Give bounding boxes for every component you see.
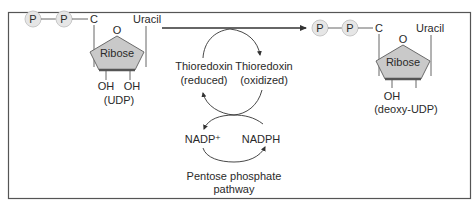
nadp-plus-label: NADP⁺: [185, 133, 222, 145]
ring-oxygen-label: O: [113, 24, 122, 36]
udp-name: (UDP): [104, 94, 135, 106]
udp-reduction-diagram: P P C O Ribose Uracil OH OH (UDP) P P C …: [0, 0, 476, 203]
hydroxyl-label: OH: [98, 80, 115, 92]
thioredoxin-reduced-line1: Thioredoxin: [175, 60, 232, 72]
phosphate-label: P: [29, 13, 36, 25]
uracil-label: Uracil: [416, 22, 444, 34]
pathway-label-line2: pathway: [214, 183, 255, 195]
pathway-label-line1: Pentose phosphate: [187, 170, 282, 182]
ring-oxygen-label: O: [399, 33, 408, 45]
thioredoxin-oxidized-line2: (oxidized): [240, 74, 288, 86]
deoxy-udp-name: (deoxy-UDP): [374, 103, 438, 115]
carbon-label: C: [375, 22, 383, 34]
hydroxyl-label: OH: [124, 80, 141, 92]
thioredoxin-oxidized-line1: Thioredoxin: [235, 60, 292, 72]
ribose-label: Ribose: [100, 47, 134, 59]
thioredoxin-reduced-line2: (reduced): [180, 74, 227, 86]
nadph-label: NADPH: [242, 133, 281, 145]
phosphate-label: P: [346, 22, 353, 34]
uracil-label: Uracil: [133, 13, 161, 25]
carbon-label: C: [90, 13, 98, 25]
hydroxyl-label: OH: [384, 90, 401, 102]
ribose-label: Ribose: [386, 56, 420, 68]
phosphate-label: P: [60, 13, 67, 25]
phosphate-label: P: [316, 22, 323, 34]
